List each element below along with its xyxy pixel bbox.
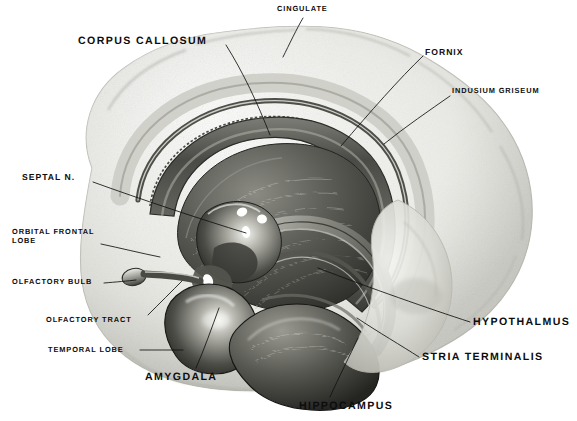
label-indusium-griseum: INDUSIUM GRISEUM xyxy=(452,87,540,96)
label-temporal-lobe: TEMPORAL LOBE xyxy=(48,346,124,355)
label-amygdala: AMYGDALA xyxy=(145,371,217,384)
label-orbital-frontal-lobe: ORBITAL FRONTAL LOBE xyxy=(12,228,94,245)
label-olfactory-tract: OLFACTORY TRACT xyxy=(46,316,132,325)
label-stria-terminalis: STRIA TERMINALIS xyxy=(422,351,543,364)
label-cingulate: CINGULATE xyxy=(277,5,328,14)
label-olfactory-bulb: OLFACTORY BULB xyxy=(12,278,92,287)
label-septal-n: SEPTAL N. xyxy=(22,172,75,182)
label-hypothalmus: HYPOTHALMUS xyxy=(473,316,570,329)
label-corpus-callosum: CORPUS CALLOSUM xyxy=(78,35,207,48)
label-fornix: FORNIX xyxy=(425,47,463,57)
label-hippocampus: HIPPOCAMPUS xyxy=(299,400,393,413)
anatomical-figure: CINGULATECORPUS CALLOSUMFORNIXINDUSIUM G… xyxy=(0,0,577,421)
label-layer: CINGULATECORPUS CALLOSUMFORNIXINDUSIUM G… xyxy=(0,0,577,421)
